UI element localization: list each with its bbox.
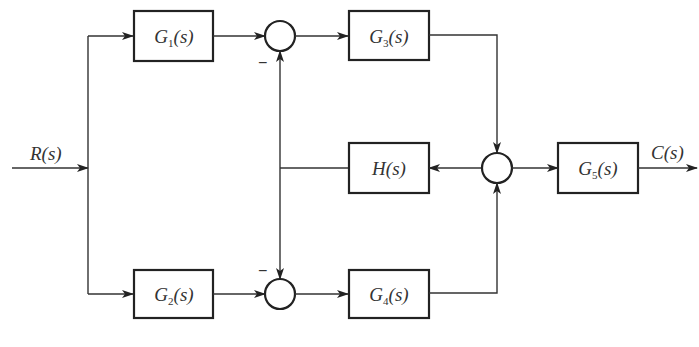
arrow-g3-to-s3 xyxy=(429,35,497,153)
minus-sign-s2: − xyxy=(258,262,267,279)
svg-text:G5(s): G5(s) xyxy=(578,158,617,181)
summing-junction-3 xyxy=(482,153,512,183)
svg-text:H(s): H(s) xyxy=(371,158,406,180)
svg-text:G4(s): G4(s) xyxy=(369,284,408,307)
svg-text:G1(s): G1(s) xyxy=(154,26,193,49)
block-g3: G3(s) xyxy=(349,11,429,60)
block-g5: G5(s) xyxy=(558,143,638,193)
block-diagram: R(s) G1(s) − G3(s) H(s) G5(s) C(s) xyxy=(0,0,699,347)
svg-text:G3(s): G3(s) xyxy=(369,26,408,49)
summing-junction-2 xyxy=(265,279,295,309)
block-g2: G2(s) xyxy=(134,270,213,318)
svg-text:G2(s): G2(s) xyxy=(154,284,193,307)
summing-junction-1 xyxy=(265,21,295,51)
block-h: H(s) xyxy=(349,143,429,193)
output-signal: C(s) xyxy=(638,142,697,168)
input-signal: R(s) xyxy=(12,143,88,168)
arrow-g4-to-s3 xyxy=(429,183,497,293)
block-g1: G1(s) xyxy=(134,11,213,61)
output-label: C(s) xyxy=(651,142,684,164)
minus-sign-s1: − xyxy=(258,54,267,71)
input-label: R(s) xyxy=(29,143,62,165)
block-g4: G4(s) xyxy=(349,270,429,318)
